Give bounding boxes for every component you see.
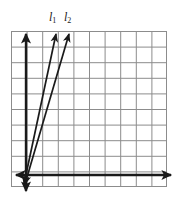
line-label-l1-subscript: 1 bbox=[52, 16, 56, 25]
line-label-l2: l2 bbox=[64, 11, 71, 23]
line-label-l2-subscript: 2 bbox=[67, 16, 71, 25]
coordinate-plane-figure: l1 l2 bbox=[0, 0, 176, 199]
line-label-l1: l1 bbox=[49, 11, 56, 23]
graph-svg bbox=[0, 0, 176, 199]
